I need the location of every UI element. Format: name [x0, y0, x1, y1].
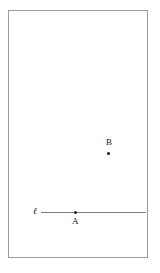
- point-a-label: A: [72, 216, 79, 226]
- figure-frame: ℓ A B: [8, 10, 148, 258]
- figure-canvas: ℓ A B: [0, 0, 160, 273]
- geometry-line: [41, 212, 146, 213]
- point-b-label: B: [106, 137, 112, 147]
- point-b-marker: [107, 152, 110, 155]
- line-label-l: ℓ: [33, 206, 37, 216]
- point-a-marker: [74, 211, 77, 214]
